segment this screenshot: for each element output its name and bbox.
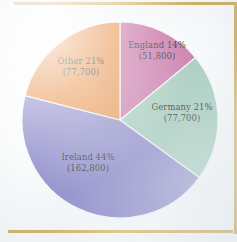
bottom-rule-divider xyxy=(8,230,233,233)
pie-label-other: Other 21% (77,700) xyxy=(38,56,124,79)
pie-label-ireland: Ireland 44% (162,800) xyxy=(42,152,134,175)
top-rule-divider xyxy=(14,2,237,5)
pie-label-other-value: (77,700) xyxy=(38,67,124,78)
pie-label-england-name: England 14% xyxy=(118,40,196,51)
pie-label-ireland-name: Ireland 44% xyxy=(42,152,134,163)
pie-label-germany-name: Germany 21% xyxy=(140,102,224,113)
pie-label-ireland-value: (162,800) xyxy=(42,163,134,174)
pie-label-england-value: (51,800) xyxy=(118,51,196,62)
right-rule-divider xyxy=(234,2,237,234)
pie-label-england: England 14% (51,800) xyxy=(118,40,196,63)
pie-label-germany: Germany 21% (77,700) xyxy=(140,102,224,125)
figure-page: England 14% (51,800) Germany 21% (77,700… xyxy=(0,0,237,242)
pie-label-other-name: Other 21% xyxy=(38,56,124,67)
pie-label-germany-value: (77,700) xyxy=(140,113,224,124)
